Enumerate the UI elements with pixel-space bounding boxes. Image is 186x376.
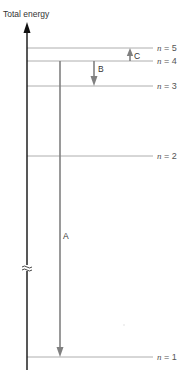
arrow-down-icon: [57, 347, 64, 357]
axis-break-icon: [22, 265, 32, 271]
level-label-n4: n = 4: [157, 56, 177, 66]
level-label-n2: n = 2: [157, 151, 177, 161]
energy-level-diagram: Total energy n = 5 n = 4 n = 3 n = 2 n =…: [0, 0, 186, 376]
transition-arrow-b: B: [91, 61, 105, 86]
level-labels: n = 5 n = 4 n = 3 n = 2 n = 1: [157, 43, 177, 362]
axis-title: Total energy: [3, 9, 50, 19]
axis-arrow-up-icon: [24, 22, 31, 33]
level-label-n3: n = 3: [157, 81, 177, 91]
energy-axis: [22, 22, 32, 370]
transition-label-b: B: [98, 64, 104, 74]
arrow-down-icon: [91, 76, 98, 86]
transition-label-a: A: [63, 231, 69, 241]
level-label-n1: n = 1: [157, 352, 177, 362]
transition-arrow-a: A: [57, 61, 70, 357]
transition-label-c: C: [134, 51, 140, 61]
speck: [123, 324, 125, 326]
transition-arrow-c: C: [127, 48, 140, 61]
level-label-n5: n = 5: [157, 43, 177, 53]
arrow-up-icon: [127, 48, 133, 56]
energy-levels: [27, 48, 153, 357]
